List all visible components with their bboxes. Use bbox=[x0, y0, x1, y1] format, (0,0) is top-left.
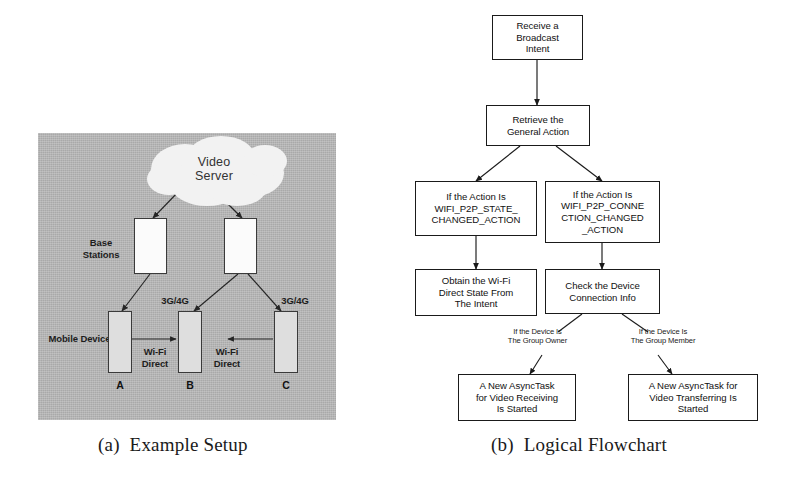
mobile-device-b[interactable] bbox=[178, 311, 202, 373]
edge-label-group-owner: If the Device Is The Group Owner bbox=[490, 327, 585, 346]
subfigure-b-logical-flowchart: Receive a Broadcast Intent Retrieve the … bbox=[390, 0, 796, 425]
device-letter-b: B bbox=[180, 379, 200, 391]
link-label-3g4g-right: 3G/4G bbox=[272, 295, 318, 307]
label-base-stations: Base Stations bbox=[70, 237, 132, 260]
box-check-device-connection-info[interactable]: Check the Device Connection Info bbox=[545, 269, 660, 314]
edge-label-group-member: If the Device Is The Group Member bbox=[612, 327, 714, 346]
edge-station2-to-deviceB bbox=[194, 274, 238, 311]
link-label-wifi-direct-left: Wi-Fi Direct bbox=[133, 346, 177, 369]
box-receive-broadcast-intent[interactable]: Receive a Broadcast Intent bbox=[492, 15, 583, 60]
edge-station1-to-deviceA bbox=[122, 274, 150, 311]
edge-group-member-to-asynctask-transferring bbox=[658, 355, 672, 374]
caption-subfigure-a: (a) Example Setup bbox=[98, 434, 248, 456]
link-label-3g4g-left: 3G/4G bbox=[152, 295, 198, 307]
box-asynctask-video-receiving[interactable]: A New AsyncTask for Video Receiving Is S… bbox=[458, 374, 576, 421]
edge-retrieve-to-state-condition bbox=[476, 146, 520, 181]
figure-root: Video Server Base Stations Mobile Device… bbox=[0, 0, 796, 483]
base-station-2[interactable] bbox=[224, 218, 257, 274]
link-label-wifi-direct-right: Wi-Fi Direct bbox=[205, 346, 249, 369]
device-letter-c: C bbox=[276, 379, 296, 391]
base-station-1[interactable] bbox=[134, 218, 167, 274]
device-letter-a: A bbox=[110, 379, 130, 391]
box-condition-wifi-p2p-state-changed[interactable]: If the Action Is WIFI_P2P_STATE_ CHANGED… bbox=[415, 181, 537, 236]
box-condition-wifi-p2p-connection-changed[interactable]: If the Action Is WIFI_P2P_CONNE CTION_CH… bbox=[545, 181, 660, 243]
box-asynctask-video-transferring[interactable]: A New AsyncTask for Video Transferring I… bbox=[628, 374, 758, 421]
box-obtain-wifi-direct-state[interactable]: Obtain the Wi-Fi Direct State From The I… bbox=[415, 269, 537, 316]
edge-retrieve-to-connection-condition bbox=[556, 146, 602, 181]
caption-subfigure-b: (b) Logical Flowchart bbox=[491, 434, 667, 456]
cloud-label: Video Server bbox=[164, 155, 264, 183]
subfigure-a-example-setup: Video Server Base Stations Mobile Device… bbox=[38, 133, 336, 420]
mobile-device-c[interactable] bbox=[274, 311, 298, 373]
box-retrieve-general-action[interactable]: Retrieve the General Action bbox=[486, 105, 590, 146]
mobile-device-a[interactable] bbox=[108, 311, 132, 373]
edge-group-owner-to-asynctask-receiving bbox=[530, 355, 542, 374]
